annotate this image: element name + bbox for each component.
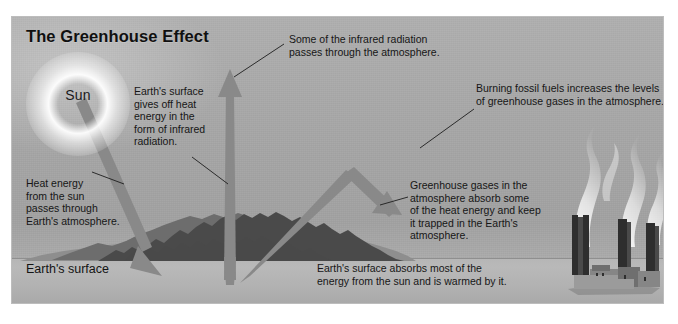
greenhouse-effect-illustration: Sun The Greenhouse Effect Some of the in…: [12, 17, 663, 303]
sun-label: Sun: [26, 87, 130, 103]
sun-icon: [26, 52, 130, 156]
annotation-surface-absorbs: Earth's surface absorbs most of the ener…: [317, 262, 532, 287]
page-title: The Greenhouse Effect: [26, 27, 209, 46]
annotation-greenhouse-gases: Greenhouse gases in the atmosphere absor…: [410, 179, 558, 242]
figure-canvas: Sun The Greenhouse Effect Some of the in…: [0, 0, 678, 324]
annotation-heat-from-sun: Heat energy from the sun passes through …: [26, 177, 131, 227]
earth-surface-label: Earth's surface: [26, 262, 109, 276]
annotation-fossil-fuels: Burning fossil fuels increases the level…: [476, 82, 663, 107]
annotation-infrared-escapes: Some of the infrared radiation passes th…: [289, 33, 499, 58]
annotation-surface-gives-off: Earth's surface gives off heat energy in…: [134, 85, 224, 148]
factory-icon: [12, 17, 663, 303]
